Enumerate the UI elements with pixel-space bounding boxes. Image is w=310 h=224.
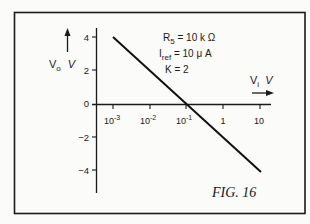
figure-caption: FIG. 16 <box>211 185 256 200</box>
y-tick-labels: 4 2 0 −2 −4 <box>78 32 89 176</box>
x-tick-label: 1 <box>221 116 226 126</box>
figure-16-chart: 4 2 0 −2 −4 10-3 10-2 10-1 1 10 VoV ViV <box>0 0 310 224</box>
x-tick-label: 10 <box>254 116 264 126</box>
x-tick-label: 10-1 <box>176 114 192 126</box>
y-axis-arrow-icon <box>65 28 71 52</box>
x-tick-label: 10-3 <box>104 114 120 126</box>
x-axis-label: ViV <box>250 74 274 89</box>
param-k: K = 2 <box>165 64 189 75</box>
figure-frame <box>15 13 306 214</box>
y-tick-label: −4 <box>78 165 89 176</box>
y-tick-label: 0 <box>84 98 89 109</box>
x-axis-arrow-icon <box>252 90 274 96</box>
x-tick-label: 10-2 <box>140 114 156 126</box>
y-tick-label: 4 <box>84 32 89 43</box>
y-axis-label: VoV <box>49 58 77 73</box>
y-tick-label: 2 <box>84 65 89 76</box>
param-iref: Iref = 10 μ A <box>159 48 212 62</box>
y-tick-label: −2 <box>78 132 89 143</box>
parameter-annotations: R5 = 10 k Ω Iref = 10 μ A K = 2 <box>159 32 216 75</box>
x-tick-labels: 10-3 10-2 10-1 1 10 <box>104 114 264 126</box>
param-r5: R5 = 10 k Ω <box>163 32 216 46</box>
y-ticks <box>92 37 97 170</box>
